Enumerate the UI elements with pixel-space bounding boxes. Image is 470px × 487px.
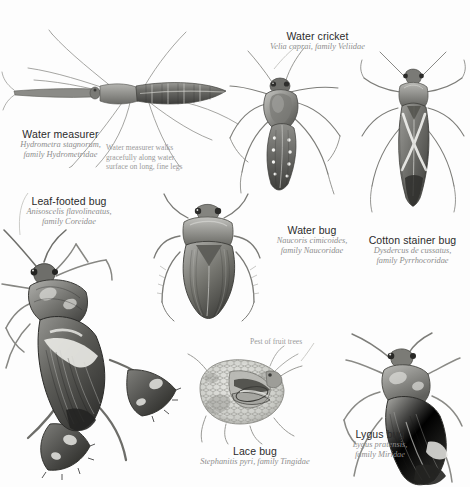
caption-cotton-stainer-bug: Cotton stainer bug Dysdercus de cussatus… — [356, 234, 469, 267]
lace-bug-common-name: Lace bug — [180, 445, 330, 457]
lygus-bug-family: family Miridae — [322, 450, 438, 460]
water-measurer-family: family Hydrometridae — [8, 150, 113, 160]
note-lace-bug: Pest of fruit trees — [250, 337, 340, 347]
water-bug-family: family Naucoridae — [266, 246, 358, 256]
water-bug-scientific-name: Naucoris cimicoides, — [266, 236, 358, 246]
water-measurer-note-line-2: gracefully along water — [106, 153, 198, 163]
lygus-bug-illustration — [336, 330, 470, 487]
caption-lygus-bug: Lygus bug Lygus pratensis, family Mirida… — [322, 428, 438, 461]
water-cricket-common-name: Water cricket — [250, 30, 385, 42]
lace-bug-note: Pest of fruit trees — [250, 337, 340, 347]
insect-plate: Water measurer Hydrometra stagnorum, fam… — [0, 0, 470, 487]
water-measurer-scientific-name: Hydrometra stagnorum, — [8, 140, 113, 150]
leaf-footed-bug-leader-line — [16, 192, 30, 236]
leaf-footed-bug-scientific-name: Anisoscelis flavolineatus, — [14, 207, 124, 217]
water-cricket-leader-line — [272, 44, 300, 70]
caption-water-bug: Water bug Naucoris cimicoides, family Na… — [266, 224, 358, 257]
leaf-footed-bug-illustration — [0, 228, 185, 487]
cotton-stainer-bug-scientific-name: Dysdercus de cussatus, — [356, 246, 469, 256]
lace-bug-leader-line — [300, 342, 316, 362]
caption-leaf-footed-bug: Leaf-footed bug Anisoscelis flavolineatu… — [14, 195, 124, 228]
water-measurer-common-name: Water measurer — [8, 128, 113, 140]
note-water-measurer: Water measurer walks gracefully along wa… — [106, 143, 198, 172]
cotton-stainer-bug-illustration — [360, 50, 468, 230]
lace-bug-scientific-name: Stephanitis pyri, family Tingidae — [180, 457, 330, 467]
cotton-stainer-bug-family: family Pyrrhocoridae — [356, 256, 469, 266]
leaf-footed-bug-common-name: Leaf-footed bug — [14, 195, 124, 207]
caption-lace-bug: Lace bug Stephanitis pyri, family Tingid… — [180, 445, 330, 467]
caption-water-measurer: Water measurer Hydrometra stagnorum, fam… — [8, 128, 113, 161]
leaf-footed-bug-family: family Coreidae — [14, 217, 124, 227]
cotton-stainer-bug-common-name: Cotton stainer bug — [356, 234, 469, 246]
water-measurer-note-line-1: Water measurer walks — [106, 143, 198, 153]
water-measurer-note-line-3: surface on long, fine legs — [106, 162, 198, 172]
water-bug-common-name: Water bug — [266, 224, 358, 236]
lygus-bug-scientific-name: Lygus pratensis, — [322, 440, 438, 450]
lygus-bug-common-name: Lygus bug — [322, 428, 438, 440]
lace-bug-illustration — [178, 342, 306, 446]
